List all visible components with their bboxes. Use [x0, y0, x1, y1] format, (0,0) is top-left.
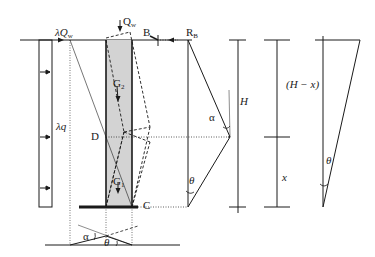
qw-label: Qw: [123, 16, 136, 29]
lambda-q-label: λq: [56, 121, 66, 132]
h-label: H: [240, 96, 248, 107]
c-label: C: [143, 200, 150, 211]
theta-bottom-label: θ: [104, 237, 109, 248]
theta-right-label: θ: [189, 175, 194, 186]
distributed-load-box: [39, 40, 52, 207]
rb-label: RB: [186, 27, 198, 40]
g1-label: G1: [113, 176, 124, 189]
theta-triangle-label: θ: [326, 155, 331, 166]
b-label: B: [143, 27, 150, 38]
alpha-bottom-label: α: [83, 231, 89, 242]
alpha-right-label: α: [209, 112, 215, 123]
lambda-qw-label: λQw: [55, 27, 73, 40]
d-label: D: [91, 131, 99, 142]
g2-label: G2: [113, 78, 124, 91]
x-label: x: [282, 172, 287, 183]
qw-arrow: [118, 26, 123, 32]
rb-arrow: [168, 38, 174, 43]
h-minus-x-label: (H − x): [286, 79, 319, 90]
load-arrows: [40, 70, 50, 190]
